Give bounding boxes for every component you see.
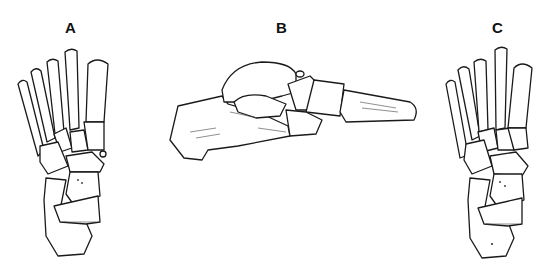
foot-illustration-a xyxy=(18,49,108,256)
foot-skeleton-illustrations xyxy=(0,0,556,274)
foot-illustration-c xyxy=(446,47,532,258)
foot-illustration-b xyxy=(170,62,416,160)
